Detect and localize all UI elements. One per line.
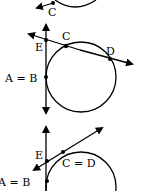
point-b (44, 75, 48, 79)
label-c: C (62, 30, 70, 43)
point-c-d (61, 150, 65, 154)
label-a-equals-b: A = B (4, 72, 37, 85)
tangent-right (63, 128, 102, 152)
point-c (51, 1, 55, 5)
label-c-equals-d: C = D (62, 157, 96, 170)
label-e: E (35, 41, 43, 54)
label-a-equals-b: A = B (0, 176, 30, 189)
panel-3: E C = D A = B (0, 127, 116, 191)
point-b (45, 179, 49, 183)
label-d: D (106, 45, 115, 58)
point-e (45, 159, 49, 163)
circle-arc (55, 0, 96, 7)
label-e: E (35, 149, 43, 162)
geometry-diagram: C E C D A = B E C = D A = B (0, 0, 144, 191)
point-c (64, 44, 68, 48)
label-c: C (48, 6, 56, 19)
panel-1: C (37, 0, 96, 19)
point-e (44, 38, 48, 42)
panel-2: E C D A = B (4, 25, 132, 113)
